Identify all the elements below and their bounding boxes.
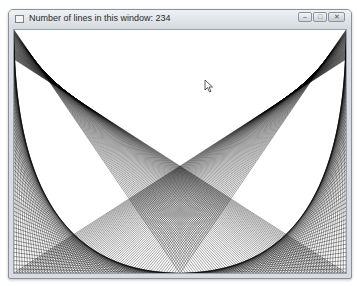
app-icon[interactable] xyxy=(15,15,24,23)
mouse-pointer-icon xyxy=(204,79,214,93)
minimize-button[interactable]: – xyxy=(298,12,312,22)
lines-drawing xyxy=(14,30,346,273)
title-bar[interactable]: Number of lines in this window: 234 – □ … xyxy=(9,10,351,29)
maximize-button[interactable]: □ xyxy=(313,12,327,22)
app-window: Number of lines in this window: 234 – □ … xyxy=(8,9,352,279)
close-button[interactable]: ✕ xyxy=(328,12,345,22)
minimize-icon: – xyxy=(299,12,311,22)
drawing-canvas[interactable] xyxy=(13,29,347,274)
close-icon: ✕ xyxy=(329,12,344,22)
maximize-icon: □ xyxy=(314,12,326,22)
window-title: Number of lines in this window: 234 xyxy=(29,13,171,23)
window-controls: – □ ✕ xyxy=(298,12,345,22)
